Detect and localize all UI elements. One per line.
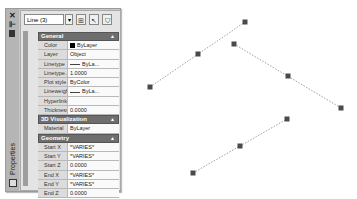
property-label: Linetype... [38,69,68,77]
property-label: Lineweight [38,87,68,95]
property-grid: General▲ColorByLayerLayerObjectLinetypeB… [38,32,119,198]
property-label: Start Y [38,152,68,160]
grip-handle[interactable] [286,74,291,79]
properties-menu-icon[interactable] [9,30,15,37]
property-value-text: *VARIES* [70,172,94,178]
property-label: Start X [38,143,68,151]
palette-title: Properties [6,137,19,182]
line-sample-icon [70,92,80,93]
property-value[interactable]: *VARIES* [68,143,119,151]
auto-hide-icon[interactable]: ⊩ [8,21,17,29]
grip-handle[interactable] [148,85,153,90]
property-label: End Z [38,189,68,197]
grip-handle[interactable] [243,20,248,25]
grip-handle[interactable] [191,171,196,176]
property-row[interactable]: End Z0.0000 [38,189,119,198]
property-value-text: *VARIES* [70,153,94,159]
section-title: General [41,33,63,39]
grip-handle[interactable] [285,117,290,122]
property-value[interactable] [68,97,119,105]
property-label: Thickness [38,106,68,114]
grip-handle[interactable] [238,144,243,149]
property-row[interactable]: End X*VARIES* [38,171,119,180]
property-label: End Y [38,180,68,188]
property-row[interactable]: End Y*VARIES* [38,180,119,189]
property-label: Layer [38,50,68,58]
property-row[interactable]: LayerObject [38,50,119,59]
property-label: Material [38,124,68,132]
property-value[interactable]: *VARIES* [68,180,119,188]
property-value[interactable]: *VARIES* [68,171,119,179]
property-row[interactable]: Start Y*VARIES* [38,152,119,161]
property-value-text: ByLa... [82,88,99,94]
property-label: Hyperlink [38,97,68,105]
property-value[interactable]: 0.0000 [68,106,119,114]
property-row[interactable]: Hyperlink [38,97,119,106]
palette-content: Line (3) ▾ ⊞ ↖ ⛉ General▲ColorByLayerLay… [20,10,121,191]
property-label: End X [38,171,68,179]
property-row[interactable]: LinetypeByLa... [38,60,119,69]
close-icon[interactable]: ✕ [8,12,17,20]
property-value-text: *VARIES* [70,181,94,187]
property-value[interactable]: ByLayer [68,41,119,49]
palette-toolbar: Line (3) ▾ ⊞ ↖ ⛉ [23,14,118,27]
select-objects-icon[interactable]: ↖ [89,14,99,25]
property-value-text: 0.0000 [70,190,87,196]
collapse-icon[interactable]: ▲ [110,116,115,123]
property-value[interactable]: ByLa... [68,60,119,68]
palette-title-strip[interactable]: ✕ ⊩ Properties [6,9,19,191]
collapse-icon[interactable]: ▲ [110,135,115,142]
toggle-pickadd-icon[interactable]: ⊞ [76,14,86,25]
property-value[interactable]: 0.0000 [68,161,119,169]
color-swatch-icon [70,43,75,48]
property-value-text: ByLa... [82,61,99,67]
palette-scrollbar[interactable] [23,31,28,186]
property-label: Color [38,41,68,49]
selection-dropdown[interactable]: Line (3) [24,14,64,25]
property-value[interactable]: Object [68,50,119,58]
property-value-text: ByLayer [77,42,97,48]
property-label: Start Z [38,161,68,169]
grip-handle[interactable] [339,106,344,111]
property-label: Linetype [38,60,68,68]
property-value[interactable]: *VARIES* [68,152,119,160]
section-header-geometry[interactable]: Geometry▲ [38,134,119,143]
property-row[interactable]: Start X*VARIES* [38,143,119,152]
property-value-text: 1.0000 [70,70,87,76]
property-value[interactable]: ByColor [68,78,119,86]
grip-handle[interactable] [232,42,237,47]
section-title: Geometry [41,135,69,141]
quick-select-icon[interactable]: ⛉ [102,14,112,25]
property-value-text: ByColor [70,79,90,85]
properties-palette: ✕ ⊩ Properties Line (3) ▾ ⊞ ↖ ⛉ General▲… [5,8,121,192]
chevron-down-icon[interactable]: ▾ [65,14,73,25]
property-value-text: 0.0000 [70,107,87,113]
property-label: Plot style [38,78,68,86]
property-value-text: ByLayer [70,125,90,131]
property-value-text: *VARIES* [70,144,94,150]
line-sample-icon [70,64,80,65]
property-row[interactable]: Start Z0.0000 [38,161,119,170]
property-row[interactable]: Thickness0.0000 [38,106,119,115]
property-row[interactable]: Plot styleByColor [38,78,119,87]
property-value-text: 0.0000 [70,162,87,168]
section-header-3d-visualization[interactable]: 3D Visualization▲ [38,115,119,124]
property-value-text: Object [70,51,86,57]
property-value[interactable]: ByLayer [68,124,119,132]
grip-handle[interactable] [196,52,201,57]
palette-settings-icon[interactable] [9,179,17,187]
property-row[interactable]: MaterialByLayer [38,124,119,133]
property-value[interactable]: 0.0000 [68,189,119,197]
section-title: 3D Visualization [41,116,87,122]
property-value[interactable]: 1.0000 [68,69,119,77]
collapse-icon[interactable]: ▲ [110,33,115,40]
property-row[interactable]: Linetype...1.0000 [38,69,119,78]
property-value[interactable]: ByLa... [68,87,119,95]
section-header-general[interactable]: General▲ [38,32,119,41]
property-row[interactable]: LineweightByLa... [38,87,119,96]
property-row[interactable]: ColorByLayer [38,41,119,50]
